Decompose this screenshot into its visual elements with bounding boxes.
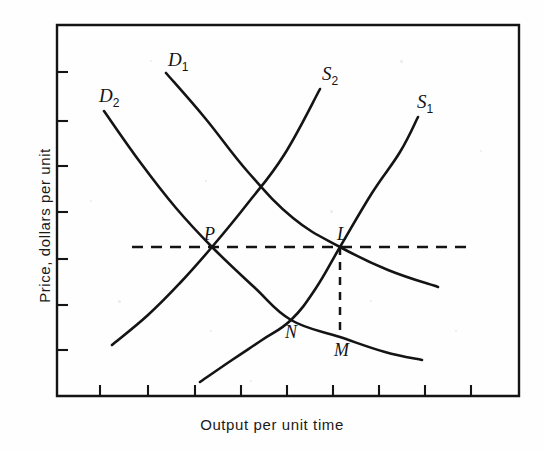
scan-speck	[330, 210, 333, 213]
scan-speck	[370, 300, 372, 302]
curve-label-subscript: 1	[182, 60, 189, 74]
scan-speck	[150, 60, 152, 62]
curve-label-s1: S1	[417, 92, 433, 115]
axis-ticks	[57, 72, 471, 396]
curve-label-d1: D1	[168, 50, 188, 73]
curve-label-base: S	[322, 63, 332, 84]
curve-s1	[200, 117, 418, 382]
x-axis-title: Output per unit time	[0, 416, 544, 433]
curve-label-base: D	[168, 49, 182, 70]
point-label-n: N	[285, 323, 297, 341]
curve-label-subscript: 2	[332, 74, 339, 88]
point-label-p: P	[204, 225, 215, 243]
curve-label-subscript: 1	[427, 102, 434, 116]
scan-speck	[400, 60, 403, 63]
scan-speck	[205, 180, 207, 182]
point-label-l: L	[337, 225, 347, 243]
curves	[104, 73, 438, 382]
curve-label-base: D	[99, 85, 113, 106]
curve-label-d2: D2	[99, 86, 119, 109]
scan-speck	[455, 330, 457, 332]
y-axis-title: Price, dollars per unit	[30, 0, 60, 451]
point-label-m: M	[334, 341, 349, 359]
scan-speck	[250, 380, 252, 382]
scan-speck	[480, 150, 482, 152]
curve-label-subscript: 2	[113, 96, 120, 110]
curve-label-base: S	[417, 91, 427, 112]
figure-container: Output per unit time Price, dollars per …	[0, 0, 544, 451]
scan-speck	[90, 200, 92, 202]
scan-speck	[300, 120, 302, 122]
guide-lines	[132, 247, 470, 336]
scan-speck	[118, 300, 121, 303]
curve-d2	[104, 111, 422, 360]
curve-s2	[112, 89, 320, 345]
curve-label-s2: S2	[322, 64, 338, 87]
chart-canvas	[0, 0, 544, 451]
scan-speck	[210, 330, 212, 332]
